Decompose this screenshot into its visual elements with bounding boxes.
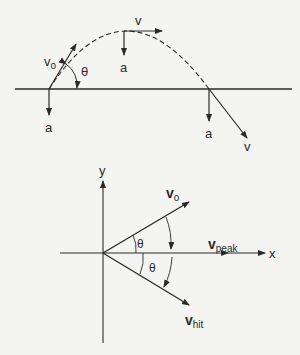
rotation-arc-lower	[164, 257, 172, 287]
vhit-label: vhit	[185, 312, 204, 330]
v-peak-label: v	[135, 13, 142, 28]
v-land-arrow	[209, 89, 247, 138]
v-land-label: v	[244, 139, 251, 154]
trajectory-diagram: vo θ a v a a v	[15, 13, 292, 154]
theta-upper-arc	[133, 235, 136, 253]
v0-vector	[103, 202, 189, 253]
a-launch-label: a	[45, 120, 53, 135]
trajectory-arc	[49, 31, 209, 89]
a-peak-label: a	[120, 60, 128, 75]
velocity-vector-diagram: y x vo vpeak vhit θ θ	[60, 163, 276, 343]
rotation-arc-upper	[166, 217, 171, 249]
theta-launch-arc	[66, 64, 77, 88]
y-axis-label: y	[99, 163, 106, 178]
theta-lower-arc	[140, 253, 143, 274]
projectile-diagram: vo θ a v a a v y x vo vpeak vhit θ θ	[0, 0, 300, 355]
vhit-vector	[103, 253, 189, 305]
v0-label: vo	[166, 185, 180, 203]
theta-launch-label: θ	[81, 64, 88, 79]
vpeak-label: vpeak	[208, 236, 238, 254]
v0-launch-label: vo	[44, 54, 57, 71]
a-land-label: a	[205, 126, 213, 141]
x-axis-label: x	[269, 246, 276, 261]
theta-upper-label: θ	[137, 237, 144, 251]
theta-lower-label: θ	[149, 261, 156, 275]
